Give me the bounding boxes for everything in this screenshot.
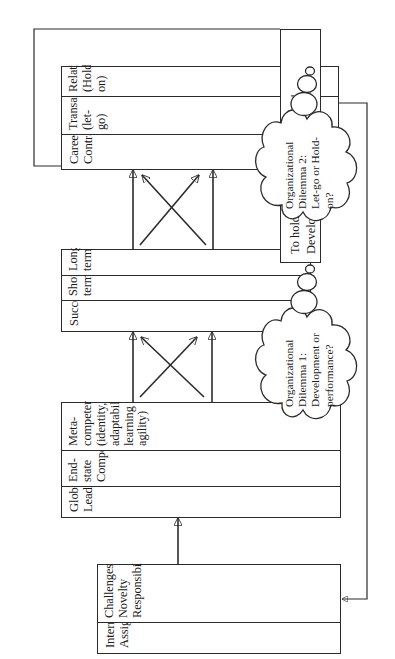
arrow-meta-to-shortterm [141, 337, 204, 397]
box-title-global-leadership: Global Leadership [62, 487, 340, 517]
cloud-1-line-3: Development or [309, 315, 322, 407]
cloud-1-tail-dots [289, 259, 323, 315]
arrow-shortterm-to-relational [140, 175, 199, 245]
diagram-canvas: International Assignment Challenges Nove… [0, 0, 395, 659]
cell-long-term: Long-term [62, 248, 310, 276]
thought-cloud-dilemma-2: Organizational Dilemma 2: Let-go or Hold… [250, 99, 372, 235]
cloud-2-line-4: on? [323, 117, 336, 209]
arrow-longterm-to-transactional [142, 175, 206, 245]
cloud-2-line-2: Dilemma 2: [296, 117, 309, 209]
cloud-2-line-3: Let-go or Hold- [309, 117, 322, 209]
cloud-1-line-1: Organizational [283, 315, 296, 407]
cell-assignment-attributes: Challenges Novelty Responsibility [98, 563, 340, 623]
cloud-1-line-2: Dilemma 1: [296, 315, 309, 407]
cloud-1-text: Organizational Dilemma 1: Development or… [283, 315, 336, 407]
cell-end-state-competencies: End-state Competencies [62, 451, 340, 487]
cloud-2-text: Organizational Dilemma 2: Let-go or Hold… [283, 117, 336, 209]
cloud-1-line-4: performance? [323, 315, 336, 407]
cloud-2-line-1: Organizational [283, 117, 296, 209]
box-international-assignment: International Assignment Challenges Nove… [97, 564, 341, 654]
cloud-2-tail-dots [289, 61, 323, 117]
arrow-endstate-to-longterm [140, 337, 197, 397]
box-title-international-assignment: International Assignment [98, 623, 340, 653]
thought-cloud-dilemma-1: Organizational Dilemma 1: Development or… [250, 297, 372, 433]
